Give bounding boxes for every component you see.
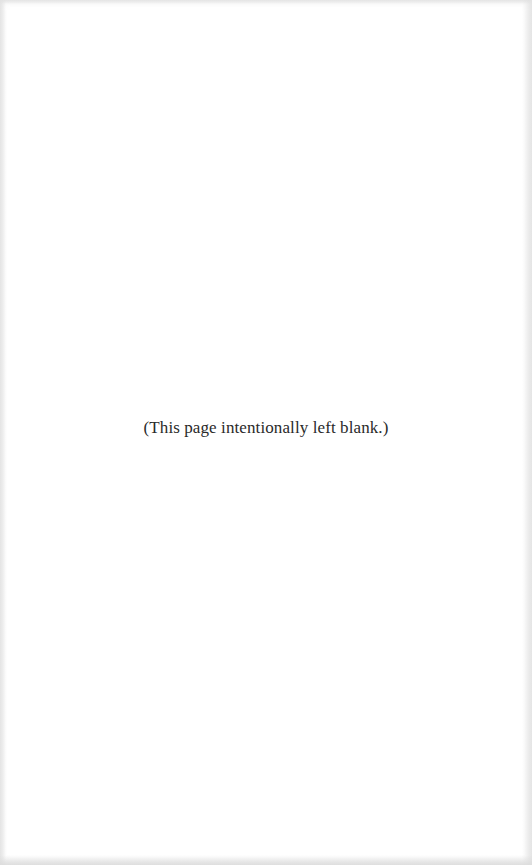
blank-page-notice: (This page intentionally left blank.) <box>0 418 532 438</box>
scan-edge-bottom <box>0 855 532 865</box>
document-page: (This page intentionally left blank.) <box>0 0 532 865</box>
scan-edge-top <box>0 0 532 4</box>
